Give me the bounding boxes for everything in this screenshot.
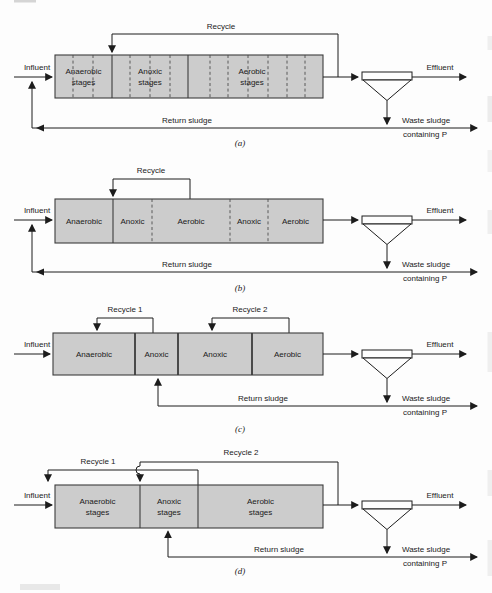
zone-label-anaerobic: Anaerobic (66, 217, 102, 226)
clarifier (362, 72, 412, 101)
scan-smudge (20, 584, 60, 590)
recycle-2-label: Recycle 2 (232, 305, 268, 314)
recycle-2-line (212, 318, 289, 333)
zone-label-anoxic-1: Anoxic (144, 350, 168, 359)
zone-label-aerobic-1: Aerobic (177, 217, 204, 226)
zone-label-aerobic: Aerobicstages (238, 67, 265, 87)
clarifier-rect (362, 72, 412, 80)
waste-sludge-label: Waste sludge (402, 545, 451, 554)
recycle-label: Recycle (137, 166, 166, 175)
process-tank (55, 55, 323, 98)
panel-tag: (d) (235, 566, 246, 576)
zone-label-anoxic: Anoxicstages (157, 497, 181, 517)
zone-label-anoxic-1: Anoxic (120, 217, 144, 226)
recycle-1-line (97, 318, 153, 333)
scan-smudge (488, 210, 492, 234)
figure-canvas: Recycle Influent Anaerobicstages Anoxics… (0, 0, 492, 593)
panel-c: Recycle 1 Recycle 2 Influent Anaerobic A… (14, 305, 477, 434)
panel-tag: (b) (235, 283, 246, 293)
waste-sludge-label-2: containing P (403, 130, 447, 139)
clarifier-rect (362, 350, 412, 358)
panel-tag: (a) (235, 138, 246, 148)
zone-label-anaerobic: Anaerobic (76, 350, 112, 359)
clarifier-rect (362, 501, 412, 509)
recycle-1-label: Recycle 1 (80, 457, 116, 466)
panel-tag: (c) (235, 424, 245, 434)
zone-label-anoxic-2: Anoxic (237, 217, 261, 226)
return-flow-arrow (36, 269, 44, 276)
clarifier (362, 350, 412, 379)
influent-label: Influent (24, 491, 51, 500)
clarifier-cone (363, 80, 411, 101)
clarifier (362, 216, 412, 245)
clarifier-cone (363, 224, 411, 245)
influent-label: Influent (24, 63, 51, 72)
recycle-2-label: Recycle 2 (223, 448, 259, 457)
recycle-line (113, 179, 190, 199)
effluent-label: Effluent (427, 340, 455, 349)
process-diagram: Recycle Influent Anaerobicstages Anoxics… (0, 0, 492, 593)
return-sludge-label: Return sludge (238, 394, 288, 403)
effluent-label: Effluent (427, 206, 455, 215)
zone-label-anoxic-2: Anoxic (203, 350, 227, 359)
scan-smudge (14, 0, 36, 3)
recycle-1-label: Recycle 1 (107, 305, 143, 314)
recycle-label: Recycle (207, 22, 236, 31)
clarifier-cone (363, 509, 411, 530)
scan-smudge (488, 150, 492, 172)
panel-d: Recycle 1 Recycle 2 Influent Anaerobicst… (14, 448, 477, 576)
panel-a: Recycle Influent Anaerobicstages Anoxics… (14, 22, 477, 148)
scan-smudge (488, 540, 492, 576)
clarifier (362, 501, 412, 530)
effluent-label: Effluent (427, 491, 455, 500)
panel-b: Recycle Influent Anaerobic Anoxic Aerobi… (14, 166, 477, 293)
zone-label-aerobic-2: Aerobic (282, 217, 309, 226)
influent-label: Influent (24, 340, 51, 349)
clarifier-cone (363, 358, 411, 379)
scan-smudge (488, 36, 492, 50)
clarifier-rect (362, 216, 412, 224)
effluent-label: Effluent (427, 63, 455, 72)
return-sludge-label: Return sludge (254, 545, 304, 554)
return-sludge-label: Return sludge (162, 260, 212, 269)
waste-sludge-label-2: containing P (403, 274, 447, 283)
return-sludge-label: Return sludge (162, 116, 212, 125)
waste-sludge-label: Waste sludge (402, 260, 451, 269)
waste-sludge-label: Waste sludge (402, 394, 451, 403)
scan-smudge (488, 470, 492, 496)
recycle-1-line (48, 470, 198, 485)
waste-sludge-label: Waste sludge (402, 116, 451, 125)
waste-sludge-label-2: containing P (403, 408, 447, 417)
zone-label-aerobic: Aerobic (274, 350, 301, 359)
scan-smudge (488, 96, 492, 122)
scan-smudge (488, 332, 492, 372)
influent-label: Influent (24, 206, 51, 215)
return-flow-arrow (36, 125, 44, 132)
process-tank (55, 485, 323, 528)
zone-label-anoxic: Anoxicstages (138, 67, 162, 87)
waste-sludge-label-2: containing P (403, 559, 447, 568)
zone-label-aerobic: Aerobicstages (247, 497, 274, 517)
